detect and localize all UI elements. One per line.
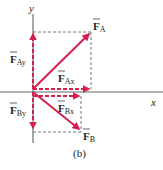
svg-text:FBy: FBy	[10, 104, 26, 118]
x-axis-label: x	[150, 96, 156, 108]
label-f-ay: FAy	[10, 52, 26, 67]
label-f-by: FBy	[10, 103, 26, 118]
figure-caption: (b)	[73, 147, 86, 160]
label-f-ax: FAx	[58, 71, 75, 86]
svg-text:FA: FA	[93, 20, 106, 34]
y-axis-label: y	[28, 2, 34, 14]
svg-text:FAy: FAy	[10, 53, 26, 67]
label-f-b: FB	[83, 129, 95, 144]
svg-text:FB: FB	[83, 130, 95, 144]
label-f-bx: FBx	[58, 101, 74, 116]
force-components-diagram: x y FA FB FAx FAy FBx FBy	[0, 0, 163, 170]
svg-text:FBx: FBx	[58, 102, 74, 116]
svg-text:FAx: FAx	[58, 72, 75, 86]
label-f-a: FA	[93, 19, 106, 34]
